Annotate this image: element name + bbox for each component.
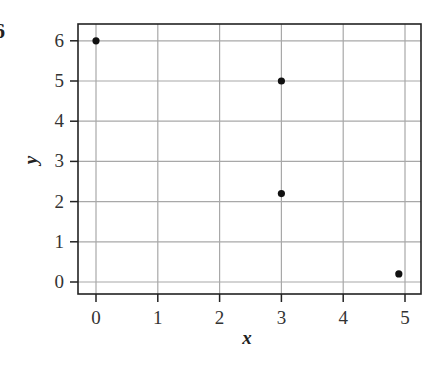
y-tick-label: 2 bbox=[55, 191, 65, 212]
x-tick-label: 4 bbox=[338, 307, 348, 328]
x-tick-label: 5 bbox=[400, 307, 410, 328]
y-tick-labels: 0123456 bbox=[55, 30, 65, 292]
y-tick-label: 5 bbox=[55, 70, 65, 91]
data-point bbox=[278, 190, 285, 197]
x-tick-label: 2 bbox=[215, 307, 225, 328]
x-tick-label: 3 bbox=[277, 307, 287, 328]
data-point bbox=[395, 270, 402, 277]
x-tick-label: 1 bbox=[153, 307, 163, 328]
scatter-chart: 012345 0123456 x y bbox=[0, 0, 438, 375]
axis-ticks bbox=[70, 41, 405, 302]
grid-lines bbox=[78, 24, 421, 294]
x-axis-label: x bbox=[241, 327, 252, 348]
y-tick-label: 1 bbox=[55, 231, 65, 252]
data-point bbox=[92, 37, 99, 44]
y-tick-label: 0 bbox=[55, 271, 65, 292]
y-tick-label: 6 bbox=[55, 30, 65, 51]
x-tick-label: 0 bbox=[91, 307, 101, 328]
plot-frame bbox=[78, 24, 421, 294]
data-point bbox=[278, 77, 285, 84]
x-tick-labels: 012345 bbox=[91, 307, 410, 328]
y-tick-label: 4 bbox=[55, 110, 65, 131]
y-tick-label: 3 bbox=[55, 150, 65, 171]
y-axis-label: y bbox=[20, 155, 41, 166]
